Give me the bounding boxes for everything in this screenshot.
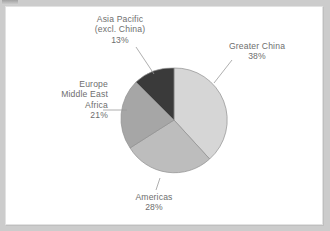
pie-label-greater-china-line1: Greater China <box>229 41 285 51</box>
pie-label-emea-line2: Middle East <box>61 89 108 99</box>
leader-line-asia-pacific <box>136 47 154 74</box>
leader-line-americas <box>156 178 160 190</box>
pie-label-asia-pacific-line2: (excl. China) <box>95 24 145 34</box>
pie-label-emea-line1: Europe <box>79 79 108 89</box>
pie-label-asia-pacific-value: 13% <box>74 35 166 45</box>
pie-label-greater-china-value: 38% <box>208 51 306 61</box>
pie-label-asia-pacific: Asia Pacific (excl. China) 13% <box>74 14 166 45</box>
pie-label-greater-china: Greater China 38% <box>208 41 306 62</box>
pie-label-americas-value: 28% <box>112 202 196 212</box>
pie-label-americas-line1: Americas <box>135 192 172 202</box>
pie-label-emea-value: 21% <box>26 110 108 120</box>
pie-label-emea-line3: Africa <box>85 100 108 110</box>
leader-line-greater-china <box>214 60 232 83</box>
pie-label-americas: Americas 28% <box>112 192 196 213</box>
pie-label-asia-pacific-line1: Asia Pacific <box>97 14 143 24</box>
pie-label-emea: Europe Middle East Africa 21% <box>26 79 108 121</box>
pie-chart-screenshot: Asia Pacific (excl. China) 13% Greater C… <box>0 0 330 231</box>
pie-chart: Asia Pacific (excl. China) 13% Greater C… <box>0 0 330 231</box>
